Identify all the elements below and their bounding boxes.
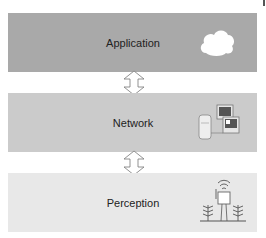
sensor-field-icon <box>198 175 248 227</box>
layer-label: Perception <box>8 173 178 232</box>
computers-icon <box>198 103 240 141</box>
corner-mark <box>263 0 265 6</box>
layer-label: Application <box>8 13 178 72</box>
cloud-icon <box>198 27 236 57</box>
layer-label: Network <box>8 93 178 152</box>
layer-perception: Perception <box>8 173 257 232</box>
layer-application: Application <box>8 13 257 72</box>
layer-network: Network <box>8 93 257 152</box>
